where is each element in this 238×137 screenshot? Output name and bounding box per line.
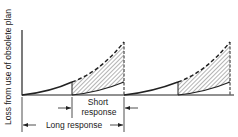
short-arrow-right-head bbox=[125, 106, 130, 110]
short-response-label-line1: Short bbox=[78, 97, 118, 107]
short-arrow-left-head bbox=[66, 106, 71, 110]
long-response-label: Long response bbox=[38, 120, 110, 130]
obsolescence-loss-diagram: Loss from use of obsolete plan Short res… bbox=[0, 0, 238, 137]
long-arrow-right-head bbox=[118, 123, 123, 127]
loss-curve-1 bbox=[22, 82, 72, 95]
loss-curve-2 bbox=[124, 82, 178, 95]
long-arrow-left-head bbox=[23, 123, 28, 127]
y-axis-label: Loss from use of obsolete plan bbox=[3, 7, 13, 127]
short-response-label-line2: response bbox=[76, 107, 122, 117]
